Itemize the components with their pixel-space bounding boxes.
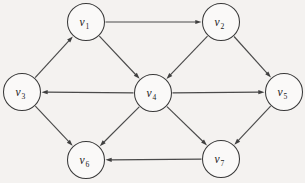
node-label-subscript: 4 (152, 93, 156, 102)
graph-canvas: v1v2v3v4v5v6v7 (0, 0, 305, 183)
edge-v3-to-v6 (35, 106, 72, 146)
edge-v2-to-v4 (166, 36, 207, 79)
graph-node-v3[interactable]: v3 (4, 74, 41, 111)
graph-node-v5[interactable]: v5 (266, 74, 303, 111)
directed-graph-figure: v1v2v3v4v5v6v7 (0, 0, 305, 183)
edge-v1-to-v4 (99, 36, 139, 79)
edge-v5-to-v7 (234, 106, 270, 145)
edge-line (167, 107, 203, 142)
node-label-subscript: 7 (220, 159, 224, 168)
edge-line (35, 40, 69, 77)
edge-v7-to-v6 (105, 158, 201, 162)
graph-node-v1[interactable]: v1 (68, 4, 105, 41)
edge-line (104, 107, 140, 143)
edge-v4-to-v7 (167, 107, 207, 146)
arrowhead-icon (195, 20, 201, 24)
edge-line (35, 106, 69, 142)
node-label-subscript: 3 (21, 92, 25, 101)
edge-line (172, 92, 259, 93)
node-label-subscript: 6 (85, 160, 89, 169)
edge-v3-to-v1 (35, 36, 73, 77)
edge-v2-to-v5 (234, 36, 271, 77)
edge-line (234, 36, 267, 73)
graph-node-v6[interactable]: v6 (68, 142, 105, 179)
node-label-subscript: 1 (85, 22, 89, 31)
edge-line (111, 159, 202, 160)
edge-v1-to-v2 (106, 20, 202, 24)
node-label-subscript: 2 (220, 22, 224, 31)
edge-v4-to-v5 (172, 90, 264, 94)
arrowhead-icon (105, 158, 111, 162)
edge-line (238, 106, 271, 141)
edge-line (99, 36, 136, 75)
arrowhead-icon (41, 90, 47, 94)
graph-node-v4[interactable]: v4 (135, 75, 172, 112)
graph-node-v7[interactable]: v7 (203, 141, 240, 178)
node-label-subscript: 5 (283, 92, 287, 101)
node-layer: v1v2v3v4v5v6v7 (4, 4, 303, 179)
edge-line (47, 92, 134, 93)
arrowhead-icon (258, 90, 264, 94)
edge-v4-to-v3 (41, 90, 133, 94)
graph-node-v2[interactable]: v2 (203, 4, 240, 41)
edge-line (170, 36, 207, 75)
edge-v4-to-v6 (100, 107, 139, 146)
